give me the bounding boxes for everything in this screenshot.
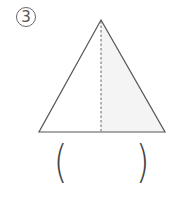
answer-close-paren: ) bbox=[136, 136, 150, 188]
answer-open-paren: ( bbox=[54, 136, 68, 188]
